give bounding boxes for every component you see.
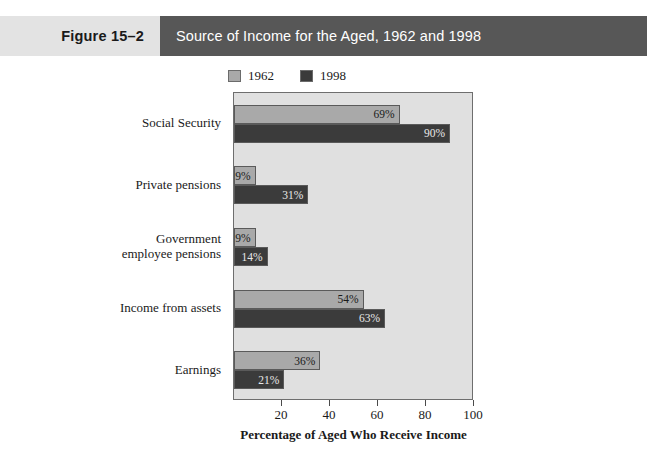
figure-number-label: Figure 15–2: [61, 28, 144, 44]
category-label-line: Earnings: [89, 362, 221, 377]
x-axis-tick-labels: 20406080100: [233, 407, 473, 425]
x-tick-label: 40: [323, 407, 336, 423]
x-tick-mark: [473, 400, 474, 406]
bar-1962: 69%: [234, 105, 400, 124]
bar-value-label: 90%: [424, 127, 449, 139]
category-label-line: Government: [89, 231, 221, 246]
x-tick-mark: [281, 400, 282, 406]
bar-group: 36%21%: [234, 351, 472, 389]
x-tick-label: 100: [463, 407, 483, 423]
x-tick-label: 60: [371, 407, 384, 423]
category-label-4: Earnings: [89, 362, 221, 377]
legend-label-1998: 1998: [320, 68, 346, 84]
figure-number-band: Figure 15–2: [0, 16, 160, 56]
bars-layer: 69%90%9%31%9%14%54%63%36%21%: [234, 93, 472, 399]
legend-swatch-1998: [300, 70, 313, 82]
y-axis-category-labels: Social SecurityPrivate pensionsGovernmen…: [95, 92, 227, 400]
bar-1998: 14%: [234, 247, 268, 266]
figure-header: Figure 15–2 Source of Income for the Age…: [0, 16, 647, 56]
x-tick-mark: [377, 400, 378, 406]
category-label-2: Governmentemployee pensions: [89, 231, 221, 261]
bar-1962: 9%: [234, 166, 256, 185]
bar-1998: 63%: [234, 309, 385, 328]
legend-swatch-1962: [228, 70, 241, 82]
bar-1998: 21%: [234, 370, 284, 389]
figure-title-band: Source of Income for the Aged, 1962 and …: [160, 16, 647, 56]
legend-label-1962: 1962: [248, 68, 274, 84]
figure-title: Source of Income for the Aged, 1962 and …: [176, 28, 481, 44]
bar-value-label: 54%: [338, 293, 363, 305]
chart-legend: 19621998: [228, 68, 346, 84]
bar-1962: 36%: [234, 351, 320, 370]
bar-1962: 54%: [234, 290, 364, 309]
x-tick-mark: [425, 400, 426, 406]
legend-entry-1962: 1962: [228, 68, 274, 84]
category-label-line: Social Security: [89, 115, 221, 130]
bar-value-label: 31%: [282, 189, 307, 201]
bar-value-label: 14%: [242, 251, 267, 263]
category-label-3: Income from assets: [89, 300, 221, 315]
bar-group: 9%31%: [234, 166, 472, 204]
category-label-line: Private pensions: [89, 177, 221, 192]
x-tick-label: 80: [419, 407, 432, 423]
bar-group: 54%63%: [234, 290, 472, 328]
bar-1998: 90%: [234, 124, 450, 143]
bar-group: 9%14%: [234, 228, 472, 266]
category-label-line: Income from assets: [89, 300, 221, 315]
bar-value-label: 36%: [294, 355, 319, 367]
bar-1998: 31%: [234, 185, 308, 204]
legend-entry-1998: 1998: [300, 68, 346, 84]
bar-value-label: 63%: [359, 312, 384, 324]
x-axis-tick-marks: [233, 400, 473, 407]
category-label-1: Private pensions: [89, 177, 221, 192]
bar-value-label: 21%: [258, 374, 283, 386]
x-tick-label: 20: [275, 407, 288, 423]
category-label-line: employee pensions: [89, 246, 221, 261]
bar-value-label: 9%: [235, 170, 254, 182]
bar-value-label: 69%: [374, 108, 399, 120]
bar-value-label: 9%: [235, 232, 254, 244]
bar-group: 69%90%: [234, 105, 472, 143]
category-label-0: Social Security: [89, 115, 221, 130]
bar-1962: 9%: [234, 228, 256, 247]
x-tick-mark: [329, 400, 330, 406]
plot-area: 69%90%9%31%9%14%54%63%36%21%: [233, 92, 473, 400]
x-axis-title: Percentage of Aged Who Receive Income: [0, 427, 647, 443]
